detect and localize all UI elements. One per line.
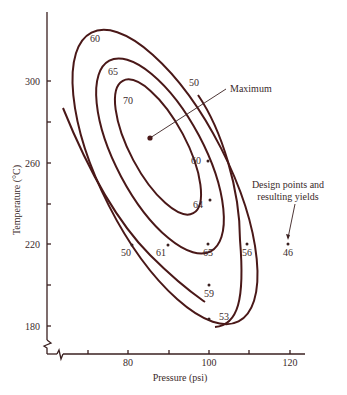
design-annotation-line2: resulting yields [257,191,318,202]
point-label-53: 53 [219,311,229,322]
design-annotation-arrow [288,204,295,238]
contour-chart: 300 260 220 180 80 100 120 Pressure (psi… [0,0,347,395]
point-label-61: 61 [156,247,166,258]
y-axis-break [44,340,51,354]
x-tick-80: 80 [123,357,133,368]
design-annotation-line1: Design points and [252,179,324,190]
contour-60 [35,4,294,350]
point-label-64: 64 [193,199,203,210]
y-tick-300: 300 [25,76,40,87]
point-label-65: 65 [203,247,213,258]
contour-lines [35,4,294,350]
x-axis-label: Pressure (psi) [153,372,208,384]
y-tick-220: 220 [25,239,40,250]
contour-label-60: 60 [90,33,100,44]
point-label-59: 59 [204,288,214,299]
point-label-46: 46 [283,247,293,258]
point-label-50: 50 [121,247,131,258]
maximum-leader [150,89,226,138]
contour-label-70: 70 [123,95,133,106]
design-annotation-arrowhead [286,234,290,240]
y-axis-label: Temperature (°C) [11,165,23,235]
x-axis-break [57,350,63,359]
maximum-label: Maximum [230,83,272,94]
x-tick-100: 100 [202,357,217,368]
point-label-56: 56 [242,247,252,258]
contour-label-65: 65 [108,66,118,77]
x-tick-120: 120 [283,357,298,368]
point-label-60: 60 [191,155,201,166]
contour-65 [70,40,249,272]
y-tick-260: 260 [25,158,40,169]
y-tick-180: 180 [25,321,40,332]
contour-label-50: 50 [189,77,199,88]
